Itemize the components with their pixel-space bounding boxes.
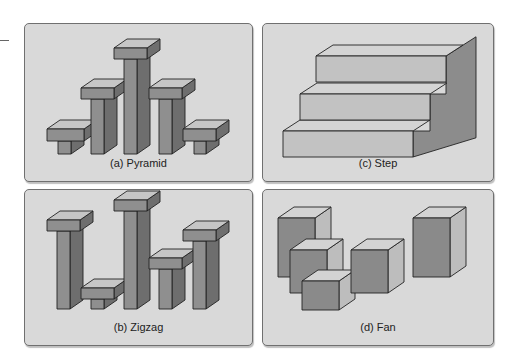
pillar-cap-front xyxy=(81,88,114,99)
pillar-cap-front xyxy=(114,48,147,59)
pillar-stem-side xyxy=(137,50,150,154)
box-side-face xyxy=(450,207,466,277)
panel-step: (c) Step xyxy=(262,23,494,182)
pillar-cap-front xyxy=(81,288,114,299)
pillar-stem-front xyxy=(91,299,104,309)
pillar-stem-side xyxy=(206,232,219,309)
box-front-face xyxy=(413,218,450,277)
pillar-cap-front xyxy=(47,129,84,141)
caption-pyramid: (a) Pyramid xyxy=(25,157,252,169)
step-tread xyxy=(300,83,447,94)
pillar-stem-front xyxy=(91,99,104,154)
box-front-face xyxy=(302,281,339,310)
pillar-stem-front xyxy=(124,211,137,309)
pillar-stem-front xyxy=(124,59,137,154)
pillar-stem-side xyxy=(137,202,150,309)
pillar-stem-front xyxy=(57,231,70,309)
pillar-stem-side xyxy=(104,90,117,154)
step-riser xyxy=(316,56,446,82)
pillar-cap-front xyxy=(183,230,216,241)
step-riser xyxy=(300,94,430,120)
pillar-stem-front xyxy=(159,269,172,309)
caption-step: (c) Step xyxy=(263,157,493,169)
panel-pyramid: (a) Pyramid xyxy=(24,23,253,182)
pillar-cap-front xyxy=(47,220,80,231)
step-tread xyxy=(283,120,430,131)
caption-fan: (d) Fan xyxy=(263,321,493,333)
pillar-stem-side xyxy=(172,90,185,154)
pillar-stem-front xyxy=(194,141,206,154)
panel-zigzag: (b) Zigzag xyxy=(24,189,253,346)
margin-tick-mark xyxy=(0,40,9,41)
step-tread xyxy=(316,45,463,56)
box-front-face xyxy=(351,250,388,293)
panel-fan: (d) Fan xyxy=(262,189,494,346)
pillar-stem-front xyxy=(193,241,206,309)
pillar-stem-front xyxy=(159,99,172,154)
step-riser xyxy=(283,131,413,157)
pillar-cap-front xyxy=(183,129,216,141)
pillar-cap-front xyxy=(149,258,182,269)
pillar-cap-front xyxy=(149,88,182,99)
pillar-stem-front xyxy=(58,141,71,154)
pillar-cap-front xyxy=(114,200,147,211)
caption-zigzag: (b) Zigzag xyxy=(25,321,252,333)
